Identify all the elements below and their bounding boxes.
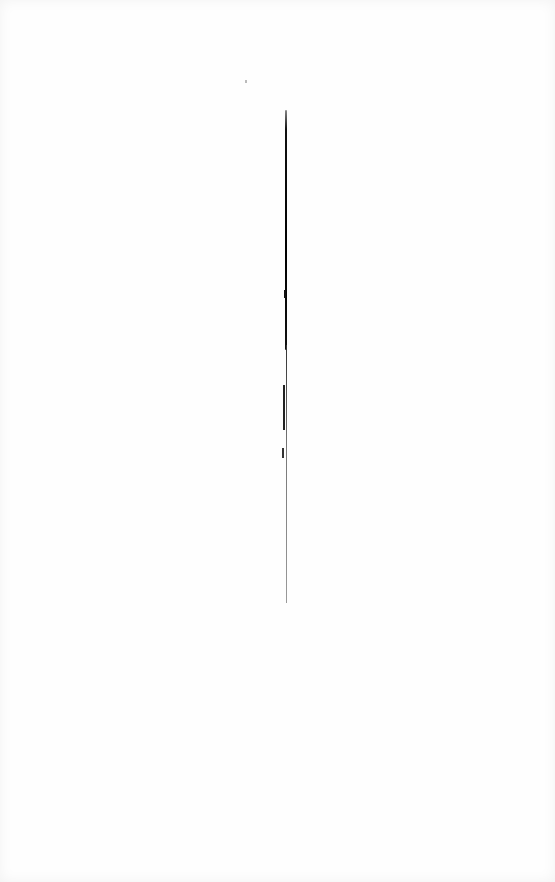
needle-shadow-mark (283, 385, 285, 430)
background (0, 0, 555, 882)
needle-mark (284, 290, 286, 298)
dust-speck (245, 80, 247, 83)
needle-shadow-mark (282, 448, 284, 458)
needle-dark-segment (285, 110, 287, 350)
needle-thin-segment (286, 345, 287, 603)
